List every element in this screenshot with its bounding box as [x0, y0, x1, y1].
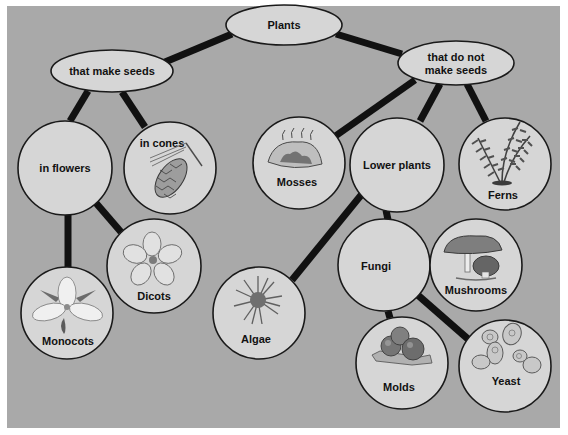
node-lower-plants-label: Lower plants	[363, 159, 431, 171]
node-monocots: Monocots	[21, 267, 113, 359]
node-molds-label: Molds	[383, 381, 415, 393]
node-fungi-label: Fungi	[361, 260, 391, 272]
node-fungi: Fungi	[338, 219, 430, 311]
node-mosses: Mosses	[253, 117, 345, 209]
node-in-flowers: in flowers	[18, 121, 112, 215]
node-molds: Molds	[356, 317, 448, 409]
node-mosses-label: Mosses	[277, 176, 317, 188]
node-in-flowers-label: in flowers	[39, 162, 90, 174]
node-algae: Algae	[213, 267, 305, 359]
node-dicots-label: Dicots	[137, 290, 171, 302]
node-lower-plants: Lower plants	[350, 118, 444, 212]
node-ferns-label: Ferns	[488, 189, 518, 201]
plants-concept-map: Plants that make seeds that do not make …	[0, 0, 568, 435]
node-plants: Plants	[226, 5, 342, 45]
node-plants-label: Plants	[267, 19, 300, 31]
node-mushrooms: Mushrooms	[430, 219, 522, 311]
node-in-cones-label: in cones	[140, 137, 185, 149]
node-in-cones: in cones	[124, 122, 216, 214]
node-no-seeds-label-line2: make seeds	[425, 64, 487, 76]
node-dicots: Dicots	[107, 219, 201, 313]
node-monocots-label: Monocots	[42, 335, 94, 347]
edge-fungi-molds	[388, 311, 390, 318]
node-ferns: Ferns	[459, 118, 551, 210]
node-no-seeds-label-line1: that do not	[428, 51, 485, 63]
node-make-seeds: that make seeds	[51, 50, 173, 92]
node-yeast: Yeast	[459, 320, 551, 412]
node-algae-label: Algae	[241, 333, 271, 345]
node-no-seeds: that do not make seeds	[398, 41, 514, 85]
node-mushrooms-label: Mushrooms	[445, 284, 507, 296]
node-yeast-label: Yeast	[492, 375, 521, 387]
node-make-seeds-label: that make seeds	[69, 65, 155, 77]
